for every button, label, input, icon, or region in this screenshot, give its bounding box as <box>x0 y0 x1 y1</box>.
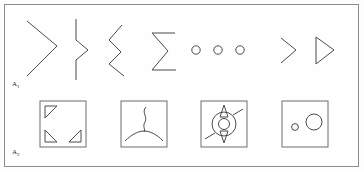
figure-outer-frame <box>4 4 359 167</box>
row-label-a2-subscript: 2 <box>17 152 20 157</box>
row-label-a1: A1 <box>12 81 20 88</box>
figure-root: A1 A2 <box>0 0 364 172</box>
row-label-a1-subscript: 1 <box>17 84 20 89</box>
row-label-a2: A2 <box>12 149 20 156</box>
